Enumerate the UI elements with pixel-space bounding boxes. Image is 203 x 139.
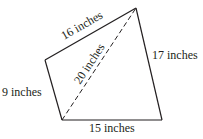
edge-left: [45, 60, 62, 120]
label-top-left-edge: 16 inches: [59, 8, 106, 43]
edge-right: [136, 8, 162, 120]
label-right-edge: 17 inches: [152, 48, 198, 62]
label-bottom-edge: 15 inches: [89, 121, 135, 135]
quadrilateral-diagram: 16 inches 17 inches 15 inches 9 inches 2…: [0, 0, 203, 139]
label-diagonal: 20 inches: [71, 41, 108, 87]
label-left-edge: 9 inches: [2, 85, 42, 99]
